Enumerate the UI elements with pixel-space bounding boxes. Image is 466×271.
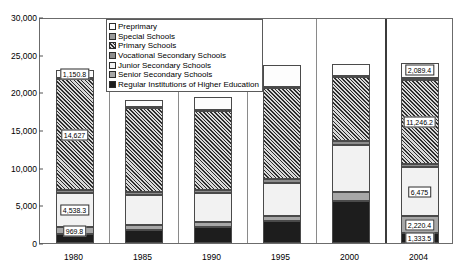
bar-segment (332, 64, 370, 76)
legend-item: Primary Schools (109, 41, 259, 51)
legend-item-label: Special Schools (118, 32, 175, 41)
legend-swatch-icon (109, 52, 116, 59)
chart-legend: PreprimarySpecial SchoolsPrimary Schools… (106, 19, 263, 92)
bar-segment (194, 111, 232, 190)
category-separator (385, 19, 387, 243)
bar-value-label: 6,475 (408, 186, 432, 197)
y-axis-tick-mark (39, 55, 43, 56)
bar-value-label: 2,089.4 (405, 65, 434, 76)
legend-item: Senior Secondary Schools (109, 70, 259, 80)
y-axis-tick-label: 25,000 (11, 51, 37, 61)
legend-item: Junior Secondary Schools (109, 60, 259, 70)
x-axis: 198019851990199520002004 (39, 246, 453, 268)
bar-value-label: 4,538.3 (60, 204, 89, 215)
bar-segment (125, 100, 163, 108)
bar-value-label: 1,150.8 (60, 69, 89, 80)
y-axis: 05,00010,00015,00020,00025,00030,000 (0, 18, 37, 244)
x-axis-tick-label-2004: 2004 (409, 252, 428, 262)
legend-item: Preprimary (109, 22, 259, 32)
bar-segment (194, 222, 232, 227)
bar-segment (263, 221, 301, 243)
bar-segment (125, 195, 163, 225)
legend-swatch-icon (109, 62, 116, 69)
bar-segment (332, 192, 370, 201)
bar-segment (125, 225, 163, 231)
legend-item: Special Schools (109, 32, 259, 42)
bar-2004: 1,333.52,220.46,47511,246.22,089.4 (401, 63, 439, 243)
bar-segment (263, 179, 301, 182)
y-axis-tick-mark (39, 18, 43, 19)
x-axis-tick-label-1985: 1985 (133, 252, 152, 262)
legend-item-label: Vocational Secondary Schools (118, 51, 226, 60)
y-axis-tick-label: 0 (32, 239, 37, 249)
bar-segment (332, 77, 370, 140)
legend-swatch-icon (109, 33, 116, 40)
bar-segment (56, 190, 94, 193)
legend-swatch-icon (109, 81, 116, 88)
bar-segment (194, 193, 232, 223)
bar-segment (332, 201, 370, 243)
y-axis-tick-mark (39, 168, 43, 169)
legend-item-label: Preprimary (118, 22, 157, 31)
bar-1980: 969.84,538.314,6271,150.8 (56, 70, 94, 243)
bar-segment (194, 227, 232, 243)
bar-segment (125, 230, 163, 243)
y-axis-tick-label: 20,000 (11, 88, 37, 98)
y-axis-tick-mark (39, 244, 43, 245)
legend-swatch-icon (109, 23, 116, 30)
y-axis-tick-mark (39, 131, 43, 132)
category-separator (316, 19, 317, 243)
bar-segment (332, 145, 370, 192)
y-axis-tick-mark (39, 206, 43, 207)
y-axis-tick-mark (39, 93, 43, 94)
bar-segment (194, 97, 232, 110)
x-axis-tick-label-1980: 1980 (64, 252, 83, 262)
bar-segment (263, 65, 301, 87)
bar-segment (263, 88, 301, 179)
y-axis-tick-label: 15,000 (11, 126, 37, 136)
bar-value-label: 14,627 (61, 129, 88, 140)
bar-segment (263, 183, 301, 216)
legend-item-label: Primary Schools (118, 41, 176, 50)
legend-item-label: Senior Secondary Schools (118, 70, 212, 79)
x-axis-tick-label-1995: 1995 (271, 252, 290, 262)
bar-value-label: 2,220.4 (405, 219, 434, 230)
x-axis-tick-label-2000: 2000 (340, 252, 359, 262)
bar-1995 (263, 65, 301, 243)
bar-value-label: 969.8 (63, 225, 87, 236)
bar-segment (125, 108, 163, 192)
bar-1990 (194, 96, 232, 243)
bar-segment (401, 164, 439, 167)
legend-swatch-icon (109, 42, 116, 49)
legend-item-label: Junior Secondary Schools (118, 61, 211, 70)
y-axis-tick-label: 10,000 (11, 164, 37, 174)
legend-item-label: Regular Institutions of Higher Education (118, 80, 259, 89)
legend-item: Vocational Secondary Schools (109, 51, 259, 61)
bar-segment (332, 141, 370, 145)
bar-1985 (125, 100, 163, 243)
legend-swatch-icon (109, 71, 116, 78)
legend-item: Regular Institutions of Higher Education (109, 80, 259, 90)
bar-2000 (332, 64, 370, 243)
bar-segment (125, 192, 163, 195)
y-axis-tick-label: 30,000 (11, 13, 37, 23)
bar-segment (194, 190, 232, 193)
x-axis-tick-label-1990: 1990 (202, 252, 221, 262)
stacked-bar-chart: 05,00010,00015,00020,00025,00030,000 969… (0, 0, 466, 271)
y-axis-tick-label: 5,000 (16, 201, 37, 211)
bar-segment (263, 216, 301, 221)
bar-value-label: 11,246.2 (403, 116, 436, 127)
bar-value-label: 1,333.5 (405, 232, 434, 243)
